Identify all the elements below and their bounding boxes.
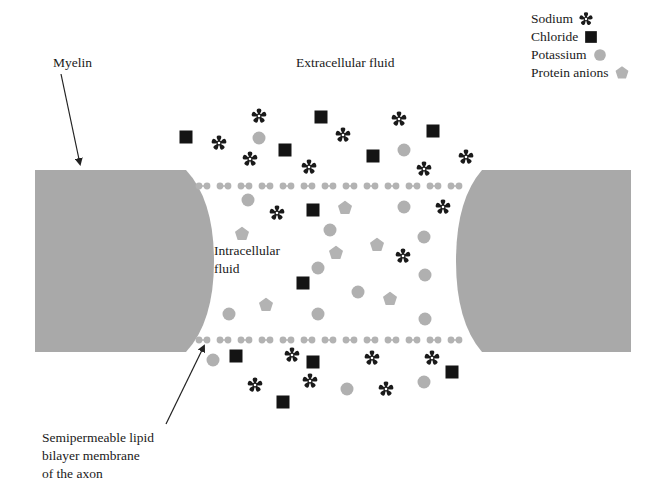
legend-label-protein-anions: Protein anions <box>531 65 609 81</box>
sodium-ion <box>436 199 451 213</box>
legend: Sodium Chloride Potassium Protein anions <box>531 10 629 82</box>
legend-item-protein-anions: Protein anions <box>531 64 629 82</box>
protein-pentagon-icon <box>615 66 629 80</box>
potassium-ion <box>341 383 354 396</box>
intracellular-fluid-label-line2: fluid <box>214 261 240 277</box>
potassium-ion <box>242 194 255 207</box>
legend-item-chloride: Chloride <box>531 28 629 46</box>
potassium-ion <box>594 49 606 61</box>
myelin-sheath-left <box>35 170 214 352</box>
potassium-ion <box>419 313 432 326</box>
chloride-ion <box>307 356 320 369</box>
sodium-ion <box>303 373 318 387</box>
legend-item-potassium: Potassium <box>531 46 629 64</box>
chloride-ion <box>446 366 459 379</box>
protein-anion <box>330 247 342 259</box>
sodium-ion <box>212 135 227 149</box>
membrane-top <box>196 183 463 190</box>
potassium-circle-icon <box>593 48 607 62</box>
sodium-ion <box>243 151 258 165</box>
protein-anion <box>260 299 272 311</box>
chloride-ion <box>230 350 243 363</box>
membrane-bottom <box>196 337 463 344</box>
membrane-label-line1: Semipermeable lipid <box>42 430 154 446</box>
potassium-ion <box>418 376 431 389</box>
potassium-ion <box>223 308 236 321</box>
legend-label-potassium: Potassium <box>531 47 587 63</box>
extracellular-fluid-label: Extracellular fluid <box>296 55 395 71</box>
sodium-ion <box>396 248 411 262</box>
potassium-ion <box>324 224 337 237</box>
chloride-square-icon <box>584 30 598 44</box>
sodium-ion <box>336 127 351 141</box>
sodium-ion <box>417 161 432 175</box>
potassium-ion <box>312 308 325 321</box>
sodium-ion <box>248 377 263 391</box>
sodium-ion <box>379 381 394 395</box>
protein-anion <box>339 202 351 214</box>
potassium-ion <box>253 132 266 145</box>
axon-diagram: Myelin Extracellular fluid Intracellular… <box>0 0 656 501</box>
legend-item-sodium: Sodium <box>531 10 629 28</box>
protein-anion <box>371 239 383 251</box>
chloride-ion <box>585 31 597 43</box>
sodium-ion <box>459 149 474 163</box>
chloride-ion <box>277 396 290 409</box>
protein-anion <box>616 67 627 78</box>
sodium-ion <box>425 350 440 364</box>
sodium-ion <box>285 347 300 361</box>
protein-anion <box>384 293 396 305</box>
sodium-ion <box>365 350 380 364</box>
myelin-label: Myelin <box>53 55 92 71</box>
legend-label-sodium: Sodium <box>531 11 573 27</box>
potassium-ion <box>352 286 365 299</box>
chloride-ion <box>297 277 310 290</box>
membrane-label-line3: of the axon <box>42 466 103 482</box>
membrane-label-line2: bilayer membrane <box>42 448 140 464</box>
sodium-ion <box>270 205 285 219</box>
chloride-ion <box>180 131 193 144</box>
chloride-ion <box>315 111 328 124</box>
potassium-ion <box>312 262 325 275</box>
sodium-ion <box>252 108 267 122</box>
membrane-pointer-arrow <box>166 346 204 424</box>
legend-label-chloride: Chloride <box>531 29 578 45</box>
potassium-ion <box>398 144 411 157</box>
potassium-ion <box>207 354 220 367</box>
myelin-pointer-arrow <box>61 74 80 164</box>
sodium-ion <box>392 111 407 125</box>
intracellular-fluid-label-line1: Intracellular <box>214 243 280 259</box>
myelin-sheath-right <box>456 170 631 352</box>
chloride-ion <box>367 150 380 163</box>
sodium-star-icon <box>579 12 593 26</box>
potassium-ion <box>419 269 432 282</box>
chloride-ion <box>279 144 292 157</box>
chloride-ion <box>307 204 320 217</box>
protein-anion <box>236 228 248 240</box>
potassium-ion <box>418 231 431 244</box>
sodium-ion <box>302 159 317 173</box>
potassium-ion <box>398 201 411 214</box>
chloride-ion <box>427 125 440 138</box>
sodium-ion <box>579 12 592 25</box>
